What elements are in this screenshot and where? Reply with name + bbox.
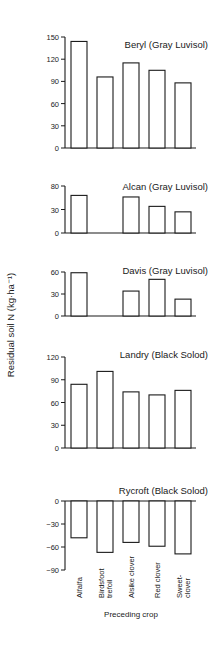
bar-birdsfoot-trefoil (97, 371, 113, 448)
panel-title: Landry (Black Solod) (120, 349, 208, 360)
x-axis-title: Preceding crop (104, 610, 158, 619)
y-tick-label: 0 (55, 444, 59, 453)
bar-alfalfa (71, 41, 87, 148)
y-tick-label: 30 (51, 122, 59, 131)
panel-davis: Davis (Gray Luvisol)03060 (51, 265, 208, 321)
y-tick-label: 120 (46, 55, 59, 64)
bar-alsike-clover (123, 291, 139, 316)
x-category-labels: AlfalfaBirdsfoottrefoilAlsike cloverRed … (75, 555, 192, 598)
panel-title: Beryl (Gray Luvisol) (125, 39, 208, 50)
y-axis-title: Residual soil N (kg·ha⁻¹) (5, 273, 16, 377)
bar-red-clover (149, 279, 165, 316)
y-tick-label: 90 (51, 77, 59, 86)
y-tick-label: 60 (51, 268, 59, 277)
bar-sweet-clover (175, 501, 191, 554)
y-tick-label: 30 (51, 206, 59, 215)
panel-alcan: Alcan (Gray Luvisol)03080 (51, 181, 208, 238)
y-tick-label: 0 (55, 497, 59, 506)
y-tick-label: −30 (46, 520, 59, 529)
bar-alfalfa (71, 195, 87, 233)
panel-title: Davis (Gray Luvisol) (122, 265, 208, 276)
panel-beryl: Beryl (Gray Luvisol)0306090120150 (46, 33, 208, 153)
panel-title: Alcan (Gray Luvisol) (122, 181, 208, 192)
x-category-label: Alsike clover (127, 555, 136, 598)
bar-chart-panels: Beryl (Gray Luvisol)0306090120150Alcan (… (0, 0, 218, 654)
y-tick-label: 80 (51, 182, 59, 191)
chart-canvas: Beryl (Gray Luvisol)0306090120150Alcan (… (0, 0, 218, 654)
y-tick-label: 30 (51, 421, 59, 430)
bar-alsike-clover (123, 197, 139, 233)
bar-alfalfa (71, 501, 87, 538)
y-tick-label: 150 (46, 33, 59, 42)
x-category-label: clover (183, 577, 192, 598)
y-tick-label: 120 (46, 353, 59, 362)
x-category-label: trefoil (105, 579, 114, 598)
y-tick-label: −60 (46, 543, 59, 552)
bar-alsike-clover (123, 392, 139, 448)
y-tick-label: 90 (51, 376, 59, 385)
bar-red-clover (149, 395, 165, 448)
bar-sweet-clover (175, 299, 191, 316)
bar-alsike-clover (123, 501, 139, 542)
bar-red-clover (149, 206, 165, 233)
x-category-label: Alfalfa (75, 576, 84, 598)
y-tick-label: 60 (51, 399, 59, 408)
y-tick-label: −90 (46, 566, 59, 575)
bar-birdsfoot-trefoil (97, 501, 113, 552)
bar-birdsfoot-trefoil (97, 77, 113, 148)
bar-red-clover (149, 501, 165, 546)
bar-sweet-clover (175, 390, 191, 448)
bar-sweet-clover (175, 83, 191, 148)
y-tick-label: 0 (55, 312, 59, 321)
panel-title: Rycroft (Black Solod) (119, 485, 208, 496)
bar-alsike-clover (123, 63, 139, 148)
y-tick-label: 30 (51, 290, 59, 299)
y-tick-label: 60 (51, 100, 59, 109)
x-category-label: Red clover (153, 562, 162, 598)
bar-red-clover (149, 70, 165, 148)
bar-alfalfa (71, 273, 87, 316)
y-tick-label: 0 (55, 144, 59, 153)
y-tick-label: 0 (55, 229, 59, 238)
bar-alfalfa (71, 384, 87, 448)
bar-sweet-clover (175, 212, 191, 233)
panel-landry: Landry (Black Solod)0306090120 (46, 349, 208, 453)
